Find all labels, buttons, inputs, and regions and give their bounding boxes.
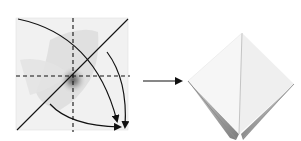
diamond-left-face bbox=[188, 33, 242, 134]
step-2-folded-diamond bbox=[188, 33, 294, 140]
step-1-square-sheet bbox=[16, 18, 130, 132]
origami-diagram bbox=[0, 0, 301, 141]
diamond-right-face bbox=[239, 33, 294, 134]
